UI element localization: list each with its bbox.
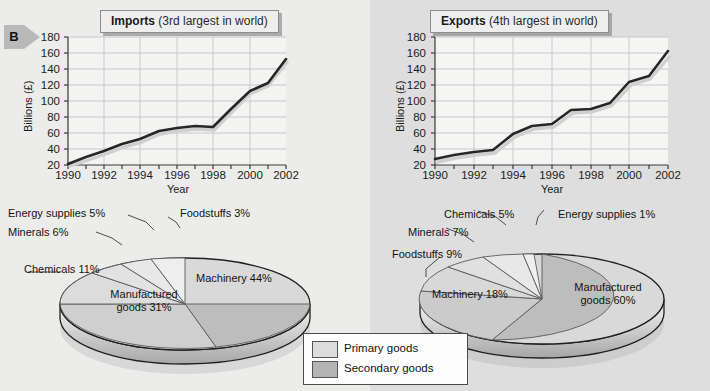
imports-callout-minerals: Minerals 6% — [8, 226, 69, 238]
imports-xtick-2002: 2002 — [269, 169, 303, 181]
imports-ytick-180: 180 — [34, 31, 60, 43]
exports-label-machinery: Machinery 18% — [432, 288, 508, 300]
exports-xtick-1990: 1990 — [418, 169, 452, 181]
exports-ytick-140: 140 — [400, 63, 426, 75]
exports-ytick-120: 120 — [400, 79, 426, 91]
exports-ytick-180: 180 — [400, 31, 426, 43]
exports-callout-minerals: Minerals 7% — [408, 226, 469, 238]
exports-label-manufactured: Manufactured goods 60% — [548, 281, 668, 307]
exports-callout-chemicals: Chemicals 5% — [444, 208, 514, 220]
imports-x-axis-label: Year — [143, 183, 213, 195]
exports-ytick-160: 160 — [400, 47, 426, 59]
imports-xtick-1998: 1998 — [196, 169, 230, 181]
exports-xtick-1996: 1996 — [535, 169, 569, 181]
secondary-goods-swatch-icon — [312, 361, 338, 378]
exports-line-chart: Billions (£) — [370, 0, 710, 200]
exports-xtick-2002: 2002 — [651, 169, 685, 181]
imports-xtick-1992: 1992 — [87, 169, 121, 181]
exports-xtick-1998: 1998 — [574, 169, 608, 181]
primary-goods-swatch-icon — [312, 341, 338, 358]
imports-xtick-2000: 2000 — [233, 169, 267, 181]
goods-legend: Primary goods Secondary goods — [303, 333, 468, 385]
exports-callout-energy: Energy supplies 1% — [558, 208, 655, 220]
exports-label-manufactured-line2: goods 60% — [580, 294, 635, 306]
imports-callout-chemicals: Chemicals 11% — [24, 263, 100, 275]
exports-callout-foodstuffs: Foodstuffs 9% — [392, 248, 462, 260]
exports-ytick-60: 60 — [400, 127, 426, 139]
imports-ytick-40: 40 — [34, 143, 60, 155]
imports-label-manufactured-line2: goods 31% — [116, 301, 171, 313]
imports-line-chart: Billions (£) — [0, 0, 360, 200]
imports-xtick-1994: 1994 — [123, 169, 157, 181]
legend-label-secondary: Secondary goods — [344, 360, 434, 377]
exports-x-axis-label: Year — [517, 183, 587, 195]
imports-label-machinery: Machinery 44% — [196, 272, 272, 284]
imports-ytick-120: 120 — [34, 79, 60, 91]
imports-xtick-1996: 1996 — [160, 169, 194, 181]
imports-callout-foodstuffs: Foodstuffs 3% — [180, 207, 250, 219]
exports-ytick-100: 100 — [400, 95, 426, 107]
legend-label-primary: Primary goods — [344, 340, 418, 357]
imports-ytick-140: 140 — [34, 63, 60, 75]
exports-xtick-2000: 2000 — [612, 169, 646, 181]
imports-xtick-1990: 1990 — [51, 169, 85, 181]
exports-xtick-1994: 1994 — [496, 169, 530, 181]
imports-label-manufactured-line1: Manufactured — [110, 288, 177, 300]
imports-ytick-80: 80 — [34, 111, 60, 123]
exports-xtick-1992: 1992 — [457, 169, 491, 181]
imports-callout-energy: Energy supplies 5% — [8, 207, 105, 219]
exports-ytick-40: 40 — [400, 143, 426, 155]
exports-label-manufactured-line1: Manufactured — [574, 281, 641, 293]
imports-ytick-60: 60 — [34, 127, 60, 139]
imports-label-manufactured: Manufactured goods 31% — [84, 288, 204, 314]
exports-ytick-80: 80 — [400, 111, 426, 123]
imports-ytick-100: 100 — [34, 95, 60, 107]
imports-ytick-160: 160 — [34, 47, 60, 59]
